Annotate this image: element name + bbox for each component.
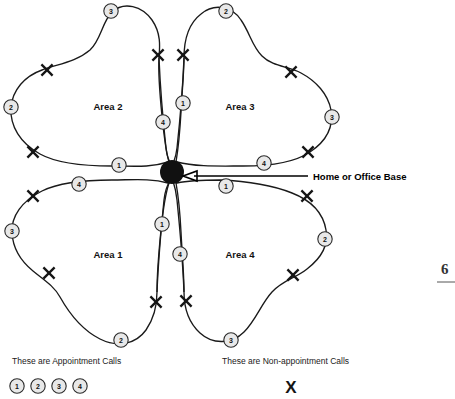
appointment-marker[interactable]: 1 <box>155 217 169 231</box>
area-label-area-3: Area 3 <box>225 101 254 112</box>
legend-appointment-symbol: 4 <box>73 379 87 393</box>
appointment-marker-number: 4 <box>161 119 165 126</box>
nonappointment-marker <box>180 295 191 306</box>
nonappointment-marker <box>152 49 163 60</box>
area-label-area-4: Area 4 <box>225 249 255 260</box>
appointment-marker[interactable]: 3 <box>5 224 19 238</box>
appointment-marker-number: 1 <box>181 100 185 107</box>
legend-marker-number: 2 <box>36 383 40 390</box>
appointment-marker[interactable]: 3 <box>104 4 118 18</box>
appointment-marker[interactable]: 2 <box>219 4 233 18</box>
appointment-marker[interactable]: 4 <box>173 247 187 261</box>
appointment-marker[interactable]: 2 <box>114 333 128 347</box>
nonappointment-marker <box>177 49 188 60</box>
appointment-marker-number: 1 <box>224 183 228 190</box>
home-office-base-hub[interactable] <box>160 160 184 184</box>
legend-marker-number: 3 <box>57 383 61 390</box>
appointment-marker-number: 4 <box>77 181 81 188</box>
appointment-marker[interactable]: 3 <box>224 333 238 347</box>
appointment-marker[interactable]: 2 <box>4 100 18 114</box>
appointment-marker-number: 3 <box>10 228 14 235</box>
nonappointment-marker <box>27 190 38 201</box>
appointment-marker-number: 3 <box>330 114 334 121</box>
appointment-marker[interactable]: 4 <box>257 156 271 170</box>
appointment-marker-number: 1 <box>160 221 164 228</box>
page-number-group: 6 <box>437 261 455 282</box>
legend-marker-number: 1 <box>15 383 19 390</box>
spoke-bottom-left <box>157 181 170 292</box>
clover-routing-diagram: Home or Office Base Area 2 Area 3 Area 1… <box>0 0 455 399</box>
appointment-marker[interactable]: 3 <box>325 110 339 124</box>
legend-appointment-symbol: 3 <box>52 379 66 393</box>
appointment-marker[interactable]: 1 <box>176 96 190 110</box>
legend-appointment-symbol: 2 <box>31 379 45 393</box>
nonappointment-marker <box>302 146 313 157</box>
appointment-marker-number: 2 <box>119 337 123 344</box>
appointment-marker-number: 3 <box>109 8 113 15</box>
legend-appointment-caption: These are Appointment Calls <box>12 356 121 366</box>
legend-appointment-symbol: 1 <box>10 379 24 393</box>
area-label-area-1: Area 1 <box>93 249 123 260</box>
spoke-top-left <box>159 58 171 164</box>
legend-marker-number: 4 <box>78 383 82 390</box>
appointment-marker[interactable]: 2 <box>318 232 332 246</box>
appointment-marker-number: 2 <box>323 236 327 243</box>
page-number: 6 <box>441 261 449 277</box>
nonappointment-marker <box>285 66 296 77</box>
appointment-marker[interactable]: 4 <box>156 115 170 129</box>
appointment-marker-number: 3 <box>229 337 233 344</box>
appointment-marker-number: 2 <box>9 104 13 111</box>
nonappointment-marker <box>301 190 312 201</box>
appointment-marker[interactable]: 1 <box>112 158 126 172</box>
appointment-marker-number: 1 <box>117 162 121 169</box>
route-area-1-outbound <box>12 180 169 344</box>
appointment-marker-number: 4 <box>178 251 182 258</box>
route-area-3-outbound <box>176 7 332 166</box>
appointment-marker[interactable]: 4 <box>72 177 86 191</box>
route-area-4-outbound <box>176 180 327 342</box>
appointment-marker-number: 2 <box>224 8 228 15</box>
appointment-marker[interactable]: 1 <box>219 179 233 193</box>
appointment-marker-number: 4 <box>262 160 266 167</box>
legend-appointment-symbols: 1234 <box>10 379 87 393</box>
area-label-area-2: Area 2 <box>93 101 122 112</box>
legend-nonappointment-symbol: X <box>285 378 297 397</box>
legend-nonappointment-caption: These are Non-appointment Calls <box>222 356 349 366</box>
nonappointment-marker <box>43 267 54 278</box>
route-area-2-outbound <box>11 6 169 166</box>
home-office-base-label: Home or Office Base <box>313 171 406 182</box>
